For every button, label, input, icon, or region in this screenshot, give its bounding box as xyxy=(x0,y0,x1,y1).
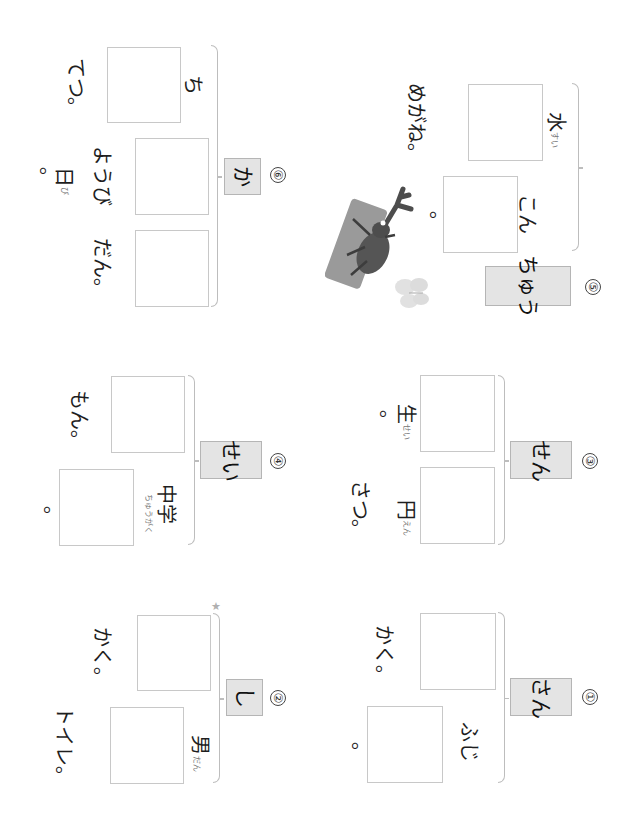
ruby-text: ちゅうがく xyxy=(144,494,152,534)
sentence-text: かく。 xyxy=(374,625,394,681)
brace xyxy=(498,612,505,783)
reading-badge: せい xyxy=(200,441,262,479)
sentence-text: てつ。 xyxy=(66,58,86,114)
problem-number: ③ xyxy=(582,453,598,469)
sentence-text: 。 xyxy=(350,742,370,762)
brace xyxy=(188,375,195,545)
sentence-text: ようび xyxy=(92,146,112,206)
sentence-text: めがね。 xyxy=(406,83,426,167)
answer-box[interactable] xyxy=(420,467,495,544)
sentence-text: さつ。 xyxy=(350,480,370,540)
answer-box[interactable] xyxy=(107,47,181,123)
answer-box[interactable] xyxy=(468,84,543,161)
sentence-text: かく。 xyxy=(92,627,112,679)
problem-number: ② xyxy=(270,690,286,706)
ruby-text: せい xyxy=(402,424,410,440)
answer-box[interactable] xyxy=(443,176,518,253)
answer-box[interactable] xyxy=(110,707,184,784)
problem-number: ⑥ xyxy=(270,167,286,183)
sentence-text: 円 xyxy=(396,500,416,520)
sentence-text: トイレ。 xyxy=(54,706,74,790)
reading-badge: せん xyxy=(510,441,572,479)
reading-badge: し xyxy=(226,679,263,716)
sentence-text: ち xyxy=(183,75,203,95)
sentence-text: だん。 xyxy=(92,238,112,298)
beetle-illustration-icon xyxy=(325,175,440,315)
answer-box[interactable] xyxy=(367,706,443,783)
brace xyxy=(211,45,218,307)
brace xyxy=(213,613,220,783)
answer-box[interactable] xyxy=(135,138,209,215)
reading-badge: ちゅう xyxy=(485,266,571,306)
answer-box[interactable] xyxy=(135,230,209,307)
sentence-text: 中学 xyxy=(156,484,176,526)
answer-box[interactable] xyxy=(59,469,134,546)
sentence-text: もん。 xyxy=(69,390,89,440)
sentence-text: 。 xyxy=(378,410,398,430)
sentence-text: ふじ xyxy=(459,722,479,764)
sentence-text: 。 xyxy=(38,167,58,187)
ruby-text: すい xyxy=(550,132,558,148)
ruby-text: えん xyxy=(402,520,410,536)
reading-badge: さん xyxy=(510,678,572,716)
brace xyxy=(572,83,579,251)
problem-number: ④ xyxy=(270,453,286,469)
reading-badge: か xyxy=(224,158,261,195)
sentence-text: こん xyxy=(517,194,537,236)
star-icon: ★ xyxy=(211,600,221,613)
sentence-text: 。 xyxy=(42,506,62,526)
ruby-text: だん xyxy=(192,756,200,772)
sentence-text: 水 xyxy=(546,112,566,132)
answer-box[interactable] xyxy=(111,376,185,453)
brace xyxy=(498,375,505,545)
answer-box[interactable] xyxy=(137,615,211,691)
sentence-text: 男 xyxy=(190,735,210,755)
ruby-text: び xyxy=(60,187,68,195)
problem-number: ⑤ xyxy=(585,279,601,295)
answer-box[interactable] xyxy=(420,613,496,690)
problem-number: ① xyxy=(582,689,598,705)
answer-box[interactable] xyxy=(420,375,495,452)
